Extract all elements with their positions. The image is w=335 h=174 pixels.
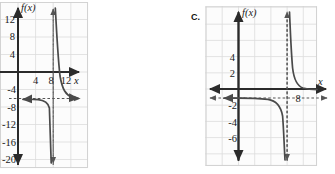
y-tick-label-12: 12 (5, 14, 16, 25)
chart-c-svg: 4 2 -2 -4 -6 8 f(x) x (205, 6, 335, 170)
y-tick-label-neg16: -16 (2, 137, 16, 148)
y-tick-label-8: 8 (10, 31, 15, 42)
y-axis-label: f(x) (242, 7, 257, 19)
y-tick-label-neg4: -4 (7, 84, 16, 95)
chart-panel-left: 12 8 4 -4 -8 -12 -16 -20 4 8 12 f(x) x (0, 2, 92, 172)
y-tick-label-neg2: -2 (228, 100, 237, 111)
asymptote-label-8: 8 (295, 93, 300, 104)
y-tick-label-neg12: -12 (2, 119, 16, 130)
y-tick-label-4: 4 (230, 52, 236, 63)
x-tick-label-12: 12 (61, 75, 72, 86)
x-axis-label: x (317, 76, 323, 87)
y-tick-label-4: 4 (10, 49, 16, 60)
chart-left-svg: 12 8 4 -4 -8 -12 -16 -20 4 8 12 f(x) x (0, 2, 92, 172)
y-tick-label-neg20: -20 (2, 154, 16, 165)
y-axis-label: f(x) (21, 2, 36, 14)
y-tick-label-neg8: -8 (7, 102, 16, 113)
x-axis-label: x (73, 75, 79, 86)
y-tick-label-neg4: -4 (228, 117, 237, 128)
choice-label-c: C. (191, 12, 200, 22)
x-tick-label-8: 8 (48, 75, 53, 86)
chart-panel-c: 4 2 -2 -4 -6 8 f(x) x (205, 6, 335, 170)
y-tick-label-neg6: -6 (228, 133, 237, 144)
y-tick-label-2: 2 (230, 68, 235, 79)
x-tick-label-4: 4 (33, 75, 39, 86)
